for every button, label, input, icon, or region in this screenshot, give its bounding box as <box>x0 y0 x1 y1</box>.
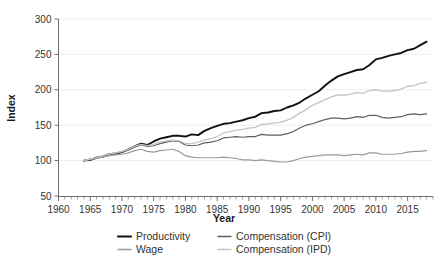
y-tick-label: 100 <box>35 155 52 166</box>
legend-label: Wage <box>136 243 163 255</box>
legend-label: Compensation (CPI) <box>236 230 331 242</box>
y-tick-label: 200 <box>35 84 52 95</box>
series-line <box>84 82 427 161</box>
x-tick-label: 1960 <box>47 204 70 215</box>
y-tick-label: 250 <box>35 49 52 60</box>
legend-label: Compensation (IPD) <box>236 243 331 255</box>
y-axis-ticks <box>55 19 59 196</box>
x-tick-label: 2015 <box>396 204 419 215</box>
chart-canvas: 50100150200250300 1960196519701975198019… <box>0 0 439 265</box>
line-chart: 50100150200250300 1960196519701975198019… <box>0 0 439 265</box>
x-tick-label: 1965 <box>79 204 102 215</box>
x-axis-title: Year <box>213 212 235 224</box>
x-tick-label: 1980 <box>174 204 197 215</box>
x-tick-label: 1975 <box>143 204 166 215</box>
y-axis-tick-labels: 50100150200250300 <box>35 14 52 202</box>
y-tick-label: 300 <box>35 14 52 25</box>
legend-label: Productivity <box>136 230 191 242</box>
x-tick-label: 1970 <box>111 204 134 215</box>
series-line <box>84 114 427 161</box>
y-axis-title: Index <box>5 94 17 122</box>
x-tick-label: 2005 <box>333 204 356 215</box>
y-tick-label: 50 <box>40 191 52 202</box>
legend: ProductivityCompensation (CPI)WageCompen… <box>118 230 331 255</box>
y-tick-label: 150 <box>35 120 52 131</box>
x-tick-label: 1990 <box>238 204 261 215</box>
x-tick-label: 1995 <box>270 204 293 215</box>
x-tick-label: 2000 <box>301 204 324 215</box>
series-lines <box>84 42 427 162</box>
series-line <box>84 42 427 161</box>
x-tick-label: 2010 <box>365 204 388 215</box>
